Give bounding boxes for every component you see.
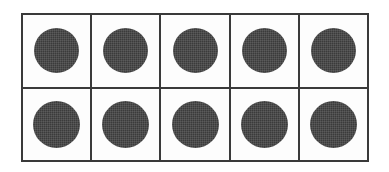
- ten-frame-cell-r2c1[interactable]: [23, 89, 92, 161]
- counter-disc-icon[interactable]: [172, 101, 219, 148]
- ten-frame-cell-r2c5[interactable]: [300, 89, 367, 161]
- ten-frame-cell-r2c4[interactable]: [231, 89, 300, 161]
- counter-disc-icon[interactable]: [173, 28, 218, 73]
- ten-frame-row-bottom: [23, 89, 367, 161]
- ten-frame-grid: [21, 13, 369, 162]
- counter-disc-icon[interactable]: [33, 101, 80, 148]
- canvas: Ten Frame: [0, 0, 389, 172]
- ten-frame-cell-r1c2[interactable]: [92, 15, 161, 87]
- counter-disc-icon[interactable]: [34, 28, 79, 73]
- counter-disc-icon[interactable]: [310, 101, 357, 148]
- ten-frame-cell-r2c3[interactable]: [161, 89, 230, 161]
- ten-frame-cell-r1c1[interactable]: [23, 15, 92, 87]
- counter-disc-icon[interactable]: [311, 28, 356, 73]
- figure-title: Ten Frame: [0, 0, 1, 1]
- ten-frame-row-top: [23, 15, 367, 89]
- ten-frame-cell-r2c2[interactable]: [92, 89, 161, 161]
- counter-disc-icon[interactable]: [242, 28, 287, 73]
- counter-disc-icon[interactable]: [103, 28, 148, 73]
- counter-disc-icon[interactable]: [241, 101, 288, 148]
- ten-frame-cell-r1c4[interactable]: [231, 15, 300, 87]
- counter-disc-icon[interactable]: [102, 101, 149, 148]
- ten-frame-cell-r1c5[interactable]: [300, 15, 367, 87]
- ten-frame-cell-r1c3[interactable]: [161, 15, 230, 87]
